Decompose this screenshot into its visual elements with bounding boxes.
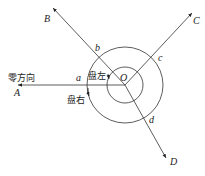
intersection-c-label: c (158, 52, 163, 63)
direction-line-d (125, 85, 166, 158)
point-c-label: C (193, 15, 200, 26)
center-o-label: O (120, 72, 127, 83)
point-b-label: B (44, 13, 50, 24)
face-right-label: 盘右 (67, 94, 85, 105)
intersection-a-label: a (76, 72, 81, 83)
intersection-d-label: d (149, 114, 155, 125)
direction-line-c (125, 13, 192, 85)
zero-direction-label: 零方向 (8, 72, 35, 83)
intersection-b-label: b (95, 42, 100, 53)
diagram-canvas: 零方向 A a B b C c D d O 盘左 盘右 (0, 0, 205, 176)
point-a-label: A (13, 87, 21, 98)
point-d-label: D (169, 156, 178, 167)
face-left-label: 盘左 (88, 70, 106, 81)
